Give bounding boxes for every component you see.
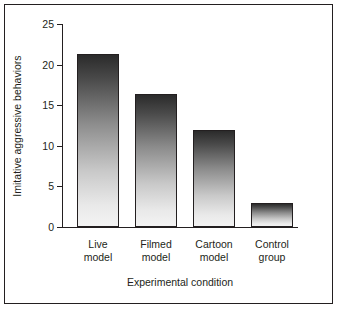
- bar-live-model[interactable]: [77, 54, 119, 227]
- x-category-cartoon-model: Cartoon model: [185, 238, 243, 263]
- x-category-live-model-line1: Live: [69, 238, 127, 251]
- x-category-filmed-model-line1: Filmed: [127, 238, 185, 251]
- y-tick-label-0: 0: [48, 222, 54, 233]
- plot-area: 0 5 10 15 20 25 Live model: [62, 24, 298, 228]
- figure: Imitative aggressive behaviors 0 5 10 15…: [0, 0, 339, 310]
- x-category-live-model-line2: model: [69, 251, 127, 264]
- y-tick-mark-4: [57, 65, 63, 66]
- x-category-filmed-model: Filmed model: [127, 238, 185, 263]
- y-tick-label-5: 25: [42, 19, 54, 30]
- y-tick-label-1: 5: [48, 181, 54, 192]
- x-axis-title: Experimental condition: [62, 276, 298, 288]
- y-tick-label-2: 10: [42, 141, 54, 152]
- bar-control-group[interactable]: [251, 203, 293, 227]
- x-category-filmed-model-line2: model: [127, 251, 185, 264]
- x-category-control-group-line2: group: [243, 251, 301, 264]
- y-tick-mark-2: [57, 146, 63, 147]
- bar-filmed-model[interactable]: [135, 94, 177, 227]
- y-tick-label-3: 15: [42, 100, 54, 111]
- x-category-control-group-line1: Control: [243, 238, 301, 251]
- y-tick-mark-5: [57, 24, 63, 25]
- y-tick-label-4: 20: [42, 59, 54, 70]
- bar-cartoon-model[interactable]: [193, 130, 235, 227]
- y-axis-title: Imitative aggressive behaviors: [10, 24, 24, 228]
- x-category-control-group: Control group: [243, 238, 301, 263]
- x-category-live-model: Live model: [69, 238, 127, 263]
- x-category-cartoon-model-line2: model: [185, 251, 243, 264]
- y-tick-mark-0: [57, 227, 63, 228]
- x-category-cartoon-model-line1: Cartoon: [185, 238, 243, 251]
- y-tick-mark-1: [57, 186, 63, 187]
- y-tick-mark-3: [57, 105, 63, 106]
